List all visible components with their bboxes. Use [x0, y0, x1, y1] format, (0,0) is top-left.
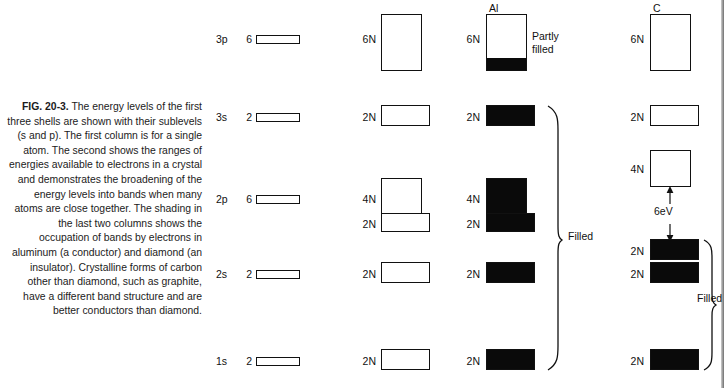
aluminum-band-3p-fill	[487, 58, 526, 70]
carbon-band-2s	[650, 262, 699, 283]
band-capacity-c-conduction: 4N	[626, 163, 644, 175]
carbon-band-3s	[650, 105, 699, 126]
shell-label-2s: 2s	[216, 268, 227, 280]
figure-caption: FIG. 20-3. The energy levels of the firs…	[6, 100, 202, 319]
band-capacity-c-2s: 2N	[626, 268, 644, 280]
band-capacity-al-3s: 2N	[462, 111, 480, 123]
aluminum-band-2s-fill	[487, 263, 534, 282]
aluminum-band-3s-fill	[487, 106, 534, 125]
carbon-conduction-band	[650, 150, 691, 187]
band-capacity-crystal-3p: 6N	[358, 33, 376, 45]
atom-level-2s	[256, 270, 300, 279]
crystal-band-1s	[381, 349, 430, 370]
carbon-filled-label: Filled	[697, 292, 722, 304]
partly-filled-note: Partly filled	[532, 30, 559, 55]
carbon-valence-band	[650, 239, 699, 260]
figure-caption-text: The energy levels of the first three she…	[7, 101, 202, 316]
band-capacity-al-2p-lower: 2N	[462, 218, 480, 230]
band-capacity-c-1s: 2N	[626, 355, 644, 367]
carbon-valence-band-fill	[651, 240, 698, 259]
aluminum-band-1s	[486, 349, 535, 370]
aluminum-filled-bracket	[546, 104, 564, 372]
atom-level-3s	[256, 113, 300, 122]
band-capacity-crystal-2s: 2N	[358, 268, 376, 280]
band-capacity-crystal-1s: 2N	[358, 355, 376, 367]
aluminum-band-2p-lower-fill	[487, 214, 534, 231]
crystal-band-2s	[381, 262, 430, 283]
energy-band-figure: FIG. 20-3. The energy levels of the firs…	[0, 0, 724, 388]
band-capacity-al-2s: 2N	[462, 268, 480, 280]
aluminum-band-2p-upper	[486, 178, 527, 215]
shell-label-3p: 3p	[216, 33, 228, 45]
degeneracy-1s: 2	[242, 355, 252, 367]
shell-label-2p: 2p	[216, 193, 228, 205]
shell-label-3s: 3s	[216, 111, 227, 123]
crystal-band-3s	[381, 105, 430, 126]
aluminum-filled-label: Filled	[568, 230, 593, 242]
band-capacity-c-3p: 6N	[626, 33, 644, 45]
aluminum-band-2p-lower	[486, 213, 535, 232]
shell-label-1s: 1s	[216, 355, 227, 367]
column-header-aluminum: Al	[489, 2, 498, 14]
band-capacity-crystal-3s: 2N	[358, 111, 376, 123]
aluminum-band-2s	[486, 262, 535, 283]
figure-label: FIG. 20-3.	[22, 101, 69, 112]
degeneracy-2s: 2	[242, 268, 252, 280]
band-capacity-crystal-2p-lower: 2N	[358, 218, 376, 230]
band-capacity-c-3s: 2N	[626, 111, 644, 123]
band-capacity-al-1s: 2N	[462, 355, 480, 367]
degeneracy-2p: 6	[242, 193, 252, 205]
partly-filled-line1: Partly	[532, 30, 559, 42]
crystal-band-3p	[381, 14, 422, 71]
carbon-band-1s	[650, 349, 699, 370]
crystal-band-2p-lower	[381, 213, 430, 232]
carbon-filled-bracket	[702, 238, 718, 372]
crystal-band-2p-upper	[381, 178, 422, 215]
aluminum-band-3p	[486, 14, 527, 71]
carbon-band-2s-fill	[651, 263, 698, 282]
degeneracy-3p: 6	[242, 33, 252, 45]
aluminum-band-3s	[486, 105, 535, 126]
aluminum-band-1s-fill	[487, 350, 534, 369]
column-header-carbon: C	[653, 2, 661, 14]
atom-level-1s	[256, 357, 300, 366]
carbon-band-1s-fill	[651, 350, 698, 369]
degeneracy-3s: 2	[242, 111, 252, 123]
carbon-band-3p	[650, 14, 691, 71]
partly-filled-line2: filled	[532, 43, 554, 55]
band-capacity-crystal-2p-upper: 4N	[358, 193, 376, 205]
band-capacity-c-valence: 2N	[626, 245, 644, 257]
atom-level-3p	[256, 35, 300, 44]
band-gap-label: 6eV	[654, 205, 673, 217]
aluminum-band-2p-upper-fill	[487, 179, 526, 214]
atom-level-2p	[256, 195, 300, 204]
band-capacity-al-2p-upper: 4N	[462, 193, 480, 205]
band-capacity-al-3p: 6N	[462, 33, 480, 45]
